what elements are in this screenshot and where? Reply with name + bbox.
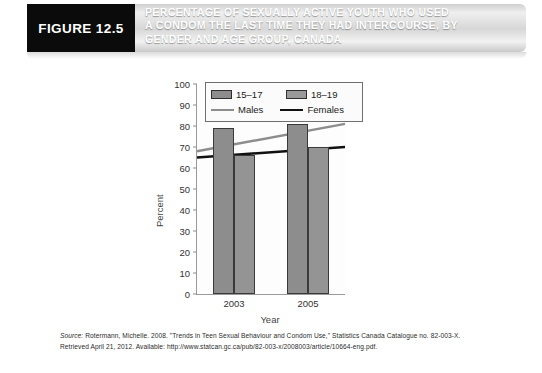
legend-swatch-icon-18-19: [286, 90, 307, 99]
banner-shadow: [27, 52, 526, 59]
legend-line-icon-males: [211, 109, 234, 111]
legend-swatch-icon-15-17: [211, 90, 232, 99]
y-axis-tick-label: 50: [168, 184, 190, 195]
y-axis-tick: 60: [168, 163, 197, 174]
y-axis-tick-mark: [193, 252, 197, 253]
source-label: Source:: [60, 332, 83, 339]
y-axis-tick-mark: [193, 273, 197, 274]
y-axis-title: Percent: [154, 194, 165, 227]
y-axis-tick-label: 40: [168, 205, 190, 216]
bar-2003-18–19: [234, 155, 255, 294]
y-axis-tick-label: 0: [168, 289, 190, 300]
chart-legend: 15–17 18–19 Males Females: [205, 82, 363, 122]
y-axis-tick-label: 10: [168, 268, 190, 279]
y-axis-tick-label: 80: [168, 121, 190, 132]
source-note: Source: Rotermann, Michelle. 2008. "Tren…: [60, 331, 485, 352]
figure-title: PERCENTAGE OF SEXUALLY ACTIVE YOUTH WHO …: [145, 6, 517, 46]
y-axis-tick: 40: [168, 205, 197, 216]
y-axis-tick-mark: [193, 231, 197, 232]
legend-item-15-17: 15–17: [211, 89, 282, 100]
y-axis-tick-label: 100: [168, 79, 190, 90]
y-axis-tick-label: 30: [168, 226, 190, 237]
figure-title-line-2: A CONDOM THE LAST TIME THEY HAD INTERCOU…: [145, 19, 517, 32]
y-axis-tick-label: 70: [168, 142, 190, 153]
y-axis-tick-label: 60: [168, 163, 190, 174]
legend-label-males: Males: [238, 104, 263, 115]
legend-label-15-17: 15–17: [236, 89, 262, 100]
chart-container: Percent 010203040506070809010020032005 Y…: [0, 62, 542, 322]
y-axis-tick-mark: [193, 168, 197, 169]
legend-row-lines: Males Females: [211, 102, 357, 117]
legend-label-females: Females: [307, 104, 343, 115]
y-axis-tick: 10: [168, 268, 197, 279]
figure-number-tag: FIGURE 12.5: [27, 4, 135, 52]
y-axis-tick: 0: [168, 289, 197, 300]
bar-2005-18–19: [308, 147, 329, 294]
legend-row-bars: 15–17 18–19: [211, 87, 357, 102]
legend-line-icon-females: [280, 109, 303, 111]
legend-item-females: Females: [280, 104, 357, 115]
y-axis-tick-label: 20: [168, 247, 190, 258]
x-axis-tick-label: 2005: [297, 298, 318, 309]
figure-title-line-3: GENDER AND AGE GROUP, CANADA: [145, 33, 517, 46]
legend-item-males: Males: [211, 104, 276, 115]
y-axis-tick-mark: [193, 189, 197, 190]
legend-label-18-19: 18–19: [311, 89, 337, 100]
y-axis-tick-mark: [193, 210, 197, 211]
figure-page: FIGURE 12.5 PERCENTAGE OF SEXUALLY ACTIV…: [0, 0, 542, 373]
legend-item-18-19: 18–19: [286, 89, 357, 100]
figure-title-line-1: PERCENTAGE OF SEXUALLY ACTIVE YOUTH WHO …: [145, 6, 517, 19]
y-axis-tick-mark: [193, 126, 197, 127]
y-axis-tick: 70: [168, 142, 197, 153]
y-axis-tick: 50: [168, 184, 197, 195]
y-axis-tick-mark: [193, 147, 197, 148]
y-axis-tick: 30: [168, 226, 197, 237]
source-text: Rotermann, Michelle. 2008. "Trends in Te…: [60, 332, 460, 350]
y-axis-tick: 80: [168, 121, 197, 132]
y-axis-tick: 20: [168, 247, 197, 258]
bar-2005-15–17: [287, 124, 308, 294]
y-axis-tick: 100: [168, 79, 197, 90]
y-axis-tick-mark: [193, 105, 197, 106]
x-axis-tick-label: 2003: [223, 298, 244, 309]
y-axis-tick: 90: [168, 100, 197, 111]
y-axis-tick-mark: [193, 294, 197, 295]
bar-2003-15–17: [213, 128, 234, 294]
x-axis-title: Year: [196, 314, 344, 325]
y-axis-tick-label: 90: [168, 100, 190, 111]
y-axis-tick-mark: [193, 84, 197, 85]
